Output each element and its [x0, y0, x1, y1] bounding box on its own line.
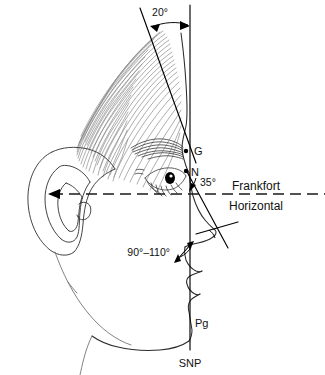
frankfort-label-line1: Frankfort [232, 179, 281, 193]
angle-label-20: 20° [152, 6, 168, 18]
angle-label-35: 35° [200, 176, 216, 188]
columella-reference-line [196, 222, 238, 234]
snp-line-label: SNP [179, 357, 202, 369]
nose-tip-angle-arc [209, 230, 215, 238]
diagram-canvas: 20° G N 35° 90°–110° Pg SNP Frankfort Ho… [0, 0, 325, 375]
frankfort-label-line2: Horizontal [229, 199, 283, 213]
facial-profile-diagram: 20° G N 35° 90°–110° Pg SNP Frankfort Ho… [0, 0, 325, 375]
angle-label-nasolabial: 90°–110° [127, 246, 170, 258]
landmark-label-pogonion: Pg [195, 317, 208, 329]
landmark-label-nasion: N [191, 166, 199, 178]
angle-marker-nasolabial [174, 241, 194, 263]
landmark-dot-nasion [184, 169, 188, 173]
landmark-dot-glabella [184, 149, 188, 153]
landmark-label-glabella: G [194, 145, 203, 157]
angle-marker-20 [150, 21, 190, 32]
frankfort-arrowhead [48, 189, 60, 199]
